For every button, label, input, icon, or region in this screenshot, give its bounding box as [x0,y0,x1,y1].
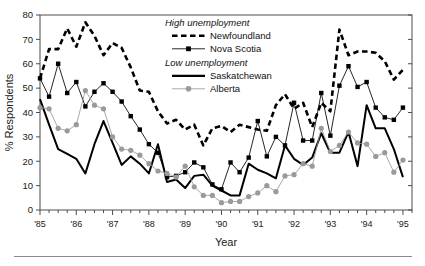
x-tick-label-'85: '85 [34,219,46,229]
data-point [246,155,250,159]
x-tick-label-'94: '94 [361,219,373,229]
chart-svg: 01020304050607080'85'86'87'88'89'90'91'9… [0,0,425,266]
data-point [255,190,260,195]
data-point [310,138,314,142]
bottom-divider-rule [14,256,412,257]
data-point [65,128,70,133]
data-point [56,62,60,66]
x-tick-label-'89: '89 [179,219,191,229]
data-point [291,172,296,177]
legend-group-title-high: High unemployment [165,17,250,28]
data-point [264,183,269,188]
data-point [246,194,251,199]
data-point [237,199,242,204]
data-point [391,170,396,175]
data-point [346,129,351,134]
data-point [101,106,106,111]
data-point [164,171,169,176]
data-point [192,160,196,164]
data-point [147,142,151,146]
data-point [192,184,197,189]
legend-label-newfoundland: Newfoundland [210,30,271,41]
data-point [37,105,42,110]
data-point [237,170,241,174]
data-point [83,104,87,108]
data-point [401,105,405,109]
data-point [210,193,215,198]
data-point [83,88,88,93]
y-tick-label-80: 80 [22,9,33,20]
y-tick-label-60: 60 [22,58,33,69]
data-point [337,143,342,148]
data-point [382,150,387,155]
data-point [146,161,151,166]
data-point [301,138,305,142]
x-tick-label-'95: '95 [397,219,409,229]
x-tick-label-'91: '91 [252,219,264,229]
data-point [274,135,278,139]
data-point [101,81,105,85]
y-tick-label-30: 30 [22,131,33,142]
data-point [138,127,142,131]
data-point [137,153,142,158]
legend-swatch-alberta-marker [186,86,192,92]
data-point [119,99,123,103]
data-point [201,165,205,169]
data-point [310,164,315,169]
data-point [328,149,333,154]
data-point [92,90,96,94]
x-tick-label-'87: '87 [107,219,119,229]
data-point [56,126,61,131]
data-point [301,161,306,166]
data-point [128,148,133,153]
data-point [129,114,133,118]
y-tick-label-0: 0 [28,204,33,215]
x-tick-label-'92: '92 [288,219,300,229]
y-axis-label: % Respondents [3,73,15,151]
data-point [383,115,387,119]
data-point [219,200,224,205]
data-point [265,154,269,158]
data-point [46,106,51,111]
chart-plot-area: 01020304050607080'85'86'87'88'89'90'91'9… [0,0,425,266]
y-tick-label-20: 20 [22,156,33,167]
data-point [374,105,378,109]
data-point [38,76,42,80]
data-point [47,94,51,98]
data-point [174,174,179,179]
legend-label-nova-scotia: Nova Scotia [210,43,262,54]
y-tick-label-50: 50 [22,82,33,93]
data-point [228,160,232,164]
data-point [319,91,323,95]
x-tick-label-'86: '86 [70,219,82,229]
data-point [364,80,368,84]
data-point [183,164,188,169]
x-tick-label-'90: '90 [216,219,228,229]
legend-label-alberta: Alberta [210,83,241,94]
data-point [65,91,69,95]
data-point [273,189,278,194]
data-point [364,142,369,147]
data-point [110,134,115,139]
data-point [355,140,360,145]
data-point [228,199,233,204]
data-point [337,83,341,87]
data-point [92,103,97,108]
data-point [201,193,206,198]
legend-swatch-nova-scotia-marker [186,46,191,51]
data-point [292,101,296,105]
y-tick-label-70: 70 [22,34,33,45]
legend-group-title-low: Low unemployment [165,57,248,68]
data-point [355,85,359,89]
data-point [110,90,114,94]
data-point [74,80,78,84]
data-point [392,118,396,122]
data-point [155,168,160,173]
data-point [282,173,287,178]
data-point [256,119,260,123]
y-tick-label-10: 10 [22,180,33,191]
legend-label-saskatchewan: Saskatchewan [210,70,272,81]
x-axis-label: Year [215,236,238,248]
chart-figure: 01020304050607080'85'86'87'88'89'90'91'9… [0,0,425,266]
data-point [319,126,324,131]
